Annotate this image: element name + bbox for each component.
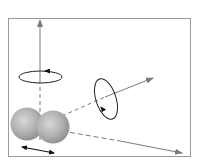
- atom-right: [37, 111, 70, 144]
- diagonal-axis: [62, 78, 153, 116]
- molecule-diagram: [0, 0, 203, 160]
- stretch-double-arrow-icon: [22, 147, 54, 153]
- bond-axis: [62, 131, 182, 153]
- rotation-diagonal-icon: [90, 76, 122, 122]
